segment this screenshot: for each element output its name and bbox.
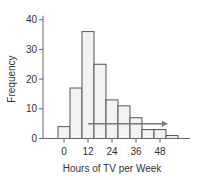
histogram-bar	[130, 118, 142, 139]
x-tick-label: 0	[61, 146, 67, 157]
y-axis-label: Frequency	[6, 55, 17, 102]
x-tick-label: 48	[154, 146, 166, 157]
x-tick-label: 36	[130, 146, 142, 157]
histogram-bar	[118, 106, 130, 139]
histogram-bar	[154, 130, 166, 139]
histogram-bar	[82, 32, 94, 139]
histogram-bar	[94, 64, 106, 138]
histogram-chart: 010203040012243648 Hours of TV per Week …	[0, 0, 199, 180]
y-tick-label: 0	[31, 133, 37, 144]
histogram-bars	[58, 32, 178, 139]
histogram-bar	[106, 100, 118, 139]
histogram-bar	[58, 127, 70, 139]
y-tick-label: 20	[26, 74, 38, 85]
x-tick-label: 24	[106, 146, 118, 157]
y-tick-label: 40	[26, 14, 38, 25]
arrow-head-icon	[162, 121, 168, 127]
y-tick-label: 10	[26, 103, 38, 114]
histogram-bar	[70, 88, 82, 138]
y-tick-label: 30	[26, 44, 38, 55]
x-axis-label: Hours of TV per Week	[63, 163, 163, 174]
x-tick-label: 12	[82, 146, 94, 157]
histogram-bar	[142, 130, 154, 139]
